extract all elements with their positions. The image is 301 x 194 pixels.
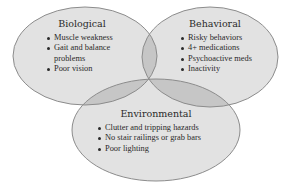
- list-item: Muscle weakness: [46, 33, 113, 43]
- list-item: No stair railings or grab bars: [97, 133, 201, 143]
- list-item: Gait and balance: [46, 43, 113, 53]
- behavioral-list: Risky behaviors 4+ medications Psychoact…: [180, 33, 252, 75]
- list-item: Inactivity: [180, 64, 252, 74]
- venn-diagram: Biological Muscle weakness Gait and bala…: [0, 0, 301, 194]
- list-item: Risky behaviors: [180, 33, 252, 43]
- list-item: Poor lighting: [97, 144, 201, 154]
- biological-title: Biological: [52, 18, 112, 29]
- biological-list: Muscle weakness Gait and balance problem…: [46, 33, 113, 75]
- list-item: 4+ medications: [180, 43, 252, 53]
- venn-shapes: [0, 0, 301, 194]
- list-item: problems: [46, 54, 113, 64]
- list-item: Clutter and tripping hazards: [97, 123, 201, 133]
- list-item: Psychoactive meds: [180, 54, 252, 64]
- environmental-title: Environmental: [116, 108, 196, 119]
- environmental-list: Clutter and tripping hazards No stair ra…: [97, 123, 201, 154]
- list-item: Poor vision: [46, 64, 113, 74]
- behavioral-title: Behavioral: [183, 18, 247, 29]
